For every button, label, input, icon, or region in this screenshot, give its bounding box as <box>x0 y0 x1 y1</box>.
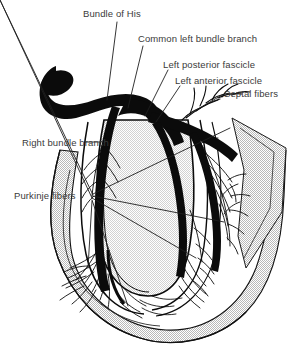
leader-purkinje-e <box>0 0 93 195</box>
label-left-posterior-fascicle: Left posterior fascicle <box>163 59 255 71</box>
label-septal-fibers: Septal fibers <box>224 88 278 100</box>
label-common-left-bundle-branch: Common left bundle branch <box>138 33 257 45</box>
label-right-bundle-branch: Right bundle branch <box>5 137 109 149</box>
label-bundle-of-his: Bundle of His <box>83 8 141 20</box>
purkinje-fiber-network-apex <box>140 296 182 315</box>
leader-bundle-of-his <box>107 22 117 100</box>
label-left-anterior-fascicle: Left anterior fascicle <box>175 75 262 87</box>
cardiac-conduction-diagram: Bundle of His Common left bundle branch … <box>0 0 298 347</box>
label-purkinje-fibers: Purkinje fibers <box>14 190 76 202</box>
diagram-artwork <box>0 0 298 347</box>
